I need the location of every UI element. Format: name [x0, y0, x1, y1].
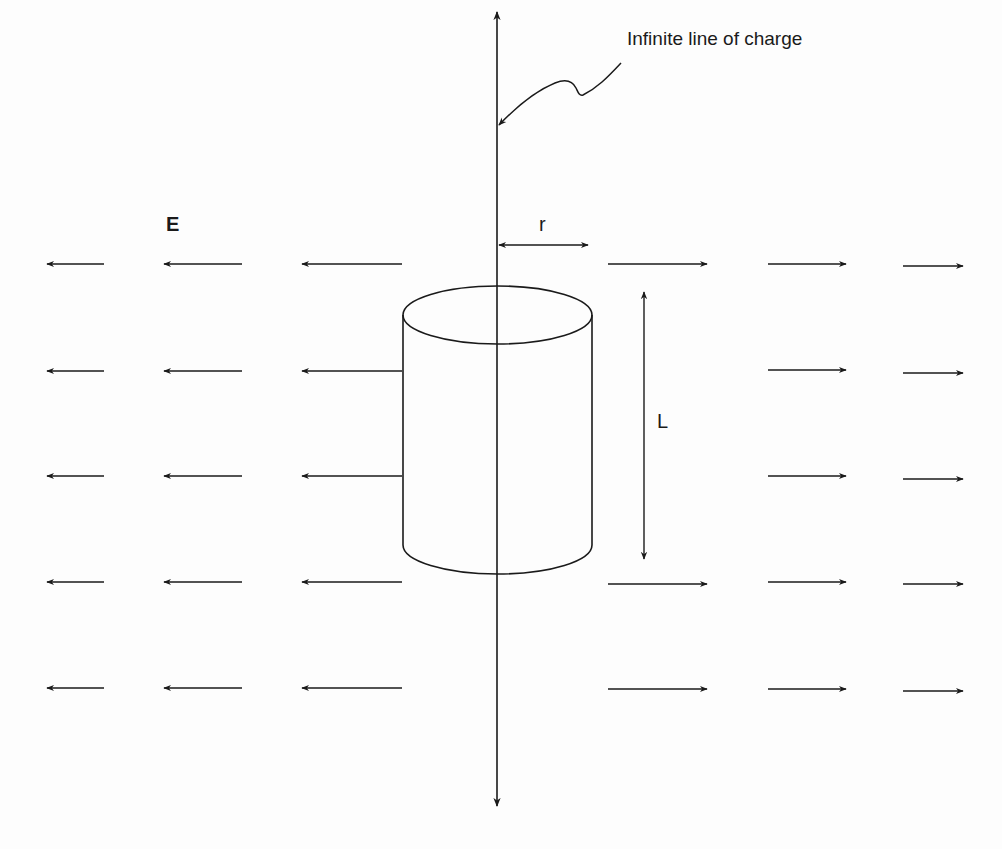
- field-arrows-right: [608, 264, 963, 691]
- line-charge-diagram: Infinite line of charge E r L: [0, 0, 1002, 849]
- line-of-charge-label: Infinite line of charge: [627, 28, 802, 50]
- diagram-svg: [0, 0, 1002, 849]
- label-pointer-arrow: [499, 63, 621, 125]
- radius-label: r: [539, 213, 546, 236]
- length-label: L: [657, 410, 668, 433]
- electric-field-label: E: [166, 213, 179, 236]
- field-arrows-left: [47, 264, 402, 688]
